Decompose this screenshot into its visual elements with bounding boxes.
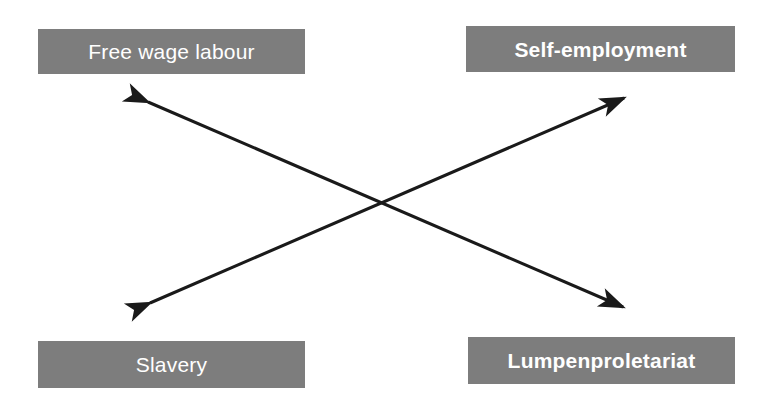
node-box-lumpenproletariat: Lumpenproletariat xyxy=(468,337,735,384)
node-label-self-employment: Self-employment xyxy=(514,39,686,60)
node-label-slavery: Slavery xyxy=(136,354,207,375)
node-box-slavery: Slavery xyxy=(38,341,305,388)
node-label-free-wage-labour: Free wage labour xyxy=(88,41,255,62)
node-label-lumpenproletariat: Lumpenproletariat xyxy=(508,350,696,371)
diagram-canvas: Free wage labour Self-employment Slavery… xyxy=(0,0,773,414)
node-box-self-employment: Self-employment xyxy=(466,26,735,72)
connector-slavery-to-self-employment xyxy=(150,98,624,303)
connector-free-wage-labour-to-lumpenproletariat xyxy=(148,102,623,307)
node-box-free-wage-labour: Free wage labour xyxy=(38,29,305,74)
